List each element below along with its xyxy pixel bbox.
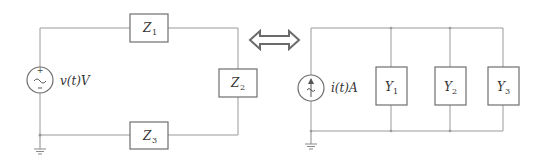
wire-left-top xyxy=(40,28,130,67)
z1-sub: 1 xyxy=(152,28,157,37)
wire-bottom-left xyxy=(40,93,130,135)
voltage-source: + v(t)V xyxy=(27,66,91,93)
z3-sub: 3 xyxy=(152,136,157,145)
plus-sign: + xyxy=(37,66,44,75)
impedance-z2: Z 2 xyxy=(219,69,257,97)
admittance-y1: Y 1 xyxy=(376,67,407,105)
ground-icon-left xyxy=(34,135,46,154)
wire-right-bottom xyxy=(168,97,238,135)
voltage-source-label: v(t)V xyxy=(60,74,91,88)
impedance-z3: Z 3 xyxy=(130,122,168,149)
z1-base: Z xyxy=(142,21,152,35)
impedance-z1: Z 1 xyxy=(130,14,168,42)
series-impedance-circuit: + v(t)V Z 1 Z 2 Z 3 xyxy=(27,14,257,154)
parallel-admittance-circuit: i(t)A Y 1 Y 2 Y 3 xyxy=(298,27,519,149)
y1-sub: 1 xyxy=(393,87,398,96)
circuit-diagram: + v(t)V Z 1 Z 2 Z 3 xyxy=(0,0,545,162)
y2-sub: 2 xyxy=(452,87,457,96)
wire-top-right xyxy=(168,28,238,69)
admittance-y2: Y 2 xyxy=(435,67,466,105)
equivalence-double-arrow-icon xyxy=(250,31,299,49)
ground-icon-right xyxy=(305,131,317,149)
z3-base: Z xyxy=(142,129,152,143)
z2-sub: 2 xyxy=(240,83,245,92)
admittance-y3: Y 3 xyxy=(488,67,519,105)
z2-base: Z xyxy=(230,76,240,90)
current-source: i(t)A xyxy=(298,75,358,101)
y3-sub: 3 xyxy=(505,87,510,96)
current-source-label: i(t)A xyxy=(331,81,358,95)
